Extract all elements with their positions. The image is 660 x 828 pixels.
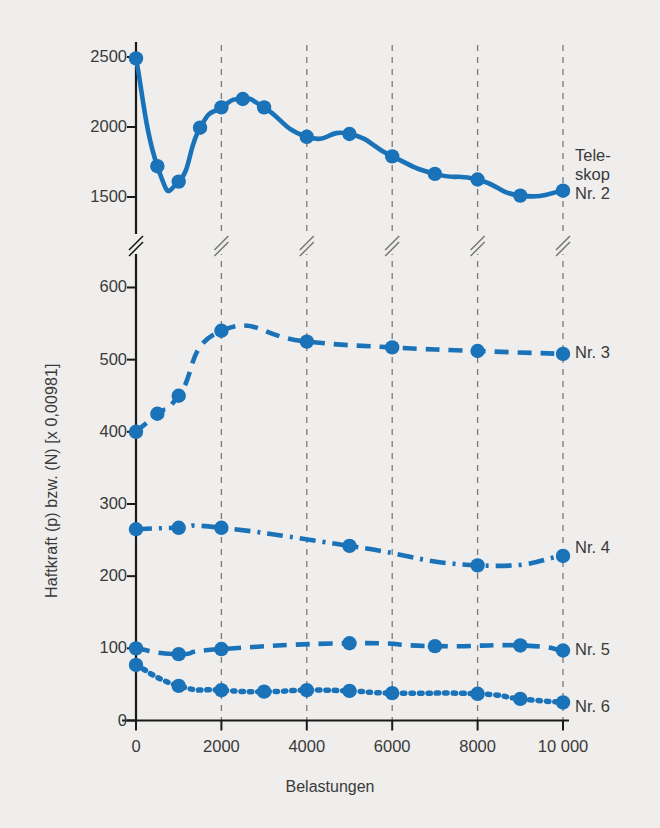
y-tick-label-100: 100 [55,638,127,657]
data-point [342,127,356,141]
x-tick-label-6000: 6000 [347,737,437,756]
y-tick-label-400: 400 [55,422,127,441]
data-point [470,687,484,701]
data-point [129,641,143,655]
y-tick-label-300: 300 [55,494,127,513]
data-point [172,679,186,693]
data-point [556,347,570,361]
y-tick-label-200: 200 [55,566,127,585]
y-tick-label-2500: 2500 [55,47,127,66]
data-point [385,686,399,700]
data-point [172,647,186,661]
data-point [470,172,484,186]
data-point [214,521,228,535]
data-point [342,636,356,650]
series-nr-6 [129,658,570,710]
data-point [129,522,143,536]
y-tick-label-500: 500 [55,350,127,369]
data-point [342,539,356,553]
series-label-teleskop-line2: skop [575,165,610,184]
gridlines-group [221,45,563,721]
series-group [129,51,570,709]
data-point [214,324,228,338]
series-label-nr4: Nr. 4 [575,538,610,557]
y-tick-label-2000: 2000 [55,117,127,136]
data-point [385,340,399,354]
data-point [172,389,186,403]
data-point [214,683,228,697]
x-tick-label-0: 0 [91,737,181,756]
x-tick-label-4000: 4000 [262,737,352,756]
data-point [428,639,442,653]
x-tick-label-10000: 10 000 [518,737,608,756]
data-point [214,100,228,114]
series-label-nr3: Nr. 3 [575,343,610,362]
series-nr-5 [129,636,570,661]
data-point [300,334,314,348]
data-point [556,549,570,563]
series-label-teleskop-line1: Tele- [575,146,611,165]
data-point [214,642,228,656]
x-axis-title: Belastungen [0,778,660,796]
data-point [129,425,143,439]
data-point [513,188,527,202]
data-point [257,100,271,114]
figure-chart: Haftkraft (p) bzw. (N) [x 0,00981] Belas… [0,0,660,828]
y-tick-label-0: 0 [55,711,127,730]
axis-break-marks [129,234,570,256]
data-point [556,643,570,657]
data-point [300,130,314,144]
series-label-nr6: Nr. 6 [575,697,610,716]
data-point [150,407,164,421]
data-point [342,684,356,698]
series-nr-4 [129,521,570,573]
data-point [470,558,484,572]
data-point [150,159,164,173]
data-point [129,658,143,672]
series-label-nr5: Nr. 5 [575,640,610,659]
series-line [136,325,563,431]
data-point [193,121,207,135]
data-point [172,521,186,535]
data-point [513,692,527,706]
x-tick-label-8000: 8000 [433,737,523,756]
data-point [470,344,484,358]
series-label-nr2: Nr. 2 [575,184,610,203]
data-point [257,684,271,698]
data-point [556,695,570,709]
data-point [300,683,314,697]
data-point [385,149,399,163]
data-point [236,92,250,106]
series-nr-2 [129,51,570,203]
x-tick-label-2000: 2000 [176,737,266,756]
y-tick-label-1500: 1500 [55,187,127,206]
data-point [428,167,442,181]
y-axis-title: Haftkraft (p) bzw. (N) [x 0,00981] [43,363,61,598]
data-point [513,638,527,652]
data-point [556,184,570,198]
series-nr-3 [129,324,570,439]
y-tick-label-600: 600 [55,277,127,296]
data-point [129,51,143,65]
data-point [172,174,186,188]
y-axis-title-wrap: Haftkraft (p) bzw. (N) [x 0,00981] [22,150,46,600]
axes-group [122,42,569,731]
